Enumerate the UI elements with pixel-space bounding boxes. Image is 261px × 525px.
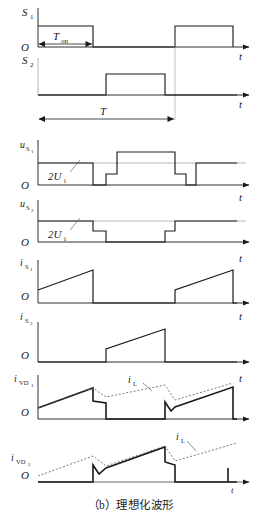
ivd1-origin-label: O	[21, 406, 29, 418]
ivd2-diode-waveform	[38, 447, 237, 482]
us2-level-leader-line	[70, 218, 80, 230]
ivd2-label-sub-main: VD	[16, 458, 26, 465]
us1-stepped-waveform	[38, 152, 237, 185]
ivd1-time-label: t	[239, 372, 243, 384]
ivd1-label-sub-main: VD	[19, 379, 29, 386]
ivd1-il-label: i	[128, 374, 131, 385]
ivd1-label-main: i	[14, 373, 17, 384]
ivd2-label-main: i	[11, 452, 14, 463]
ivd2-time-label: t	[231, 485, 234, 495]
trace-us2: u S 2 O 2U i	[20, 198, 249, 248]
is2-label-main: i	[20, 311, 23, 322]
period-label: T	[100, 105, 107, 117]
ivd2-il-label: i	[176, 431, 179, 442]
ivd2-il-sublabel: L	[181, 437, 185, 444]
us2-label-sub-sub: 2	[31, 208, 34, 213]
is1-label-sub-sub: 1	[30, 267, 33, 272]
s1-label-sub: 1	[30, 13, 34, 21]
s2-label-main: S	[22, 54, 28, 66]
ivd1-diode-waveform	[38, 387, 237, 419]
trace-is2: i S 2 O t	[20, 310, 249, 362]
is1-ramp-waveform	[38, 270, 237, 303]
trace-s1: S 1 O t T on	[21, 6, 249, 120]
ivd2-il-overlay	[38, 443, 237, 476]
is2-label-sub-main: S	[25, 317, 29, 324]
timing-diagram-svg: S 1 O t T on S 2 t T u S 1 O 2U i t	[0, 0, 261, 525]
us2-label-main: u	[20, 198, 25, 209]
t-on-label: T	[53, 30, 60, 42]
us2-stepped-waveform	[38, 221, 237, 242]
us2-level-label: 2U	[48, 228, 63, 240]
us1-label-sub-main: S	[26, 145, 30, 152]
us1-time-label: t	[239, 191, 243, 203]
us1-label-main: u	[20, 139, 25, 150]
s1-label-main: S	[22, 6, 28, 18]
trace-s2: S 2 t T	[22, 54, 249, 119]
is1-label-main: i	[20, 257, 23, 268]
t-on-sublabel: on	[61, 37, 69, 45]
is2-origin-label: O	[21, 349, 29, 361]
waveform-figure: S 1 O t T on S 2 t T u S 1 O 2U i t	[0, 0, 261, 525]
us1-level-label: 2U	[48, 170, 63, 182]
is1-origin-label: O	[21, 290, 29, 302]
is1-time-label: t	[239, 252, 243, 264]
us1-level-leader-line	[70, 160, 80, 172]
trace-is1: i S 1 O t	[20, 252, 249, 303]
ivd2-label-sub-sub: 2	[28, 462, 31, 467]
is1-label-sub-main: S	[25, 263, 29, 270]
s2-pulse-waveform	[38, 74, 237, 95]
is2-ramp-waveform	[38, 329, 237, 362]
trace-ivd2: i L i VD 2 O t	[11, 431, 249, 495]
trace-ivd1: i L i VD 1 O t	[14, 372, 249, 419]
ivd2-origin-label: O	[21, 469, 29, 481]
ivd1-il-sublabel: L	[133, 380, 137, 387]
us2-level-sublabel: i	[64, 235, 66, 243]
s1-origin-label: O	[21, 41, 29, 53]
ivd2-il-leader-line	[187, 441, 196, 451]
us1-level-sublabel: i	[64, 177, 66, 185]
ivd1-label-sub-sub: 1	[31, 383, 34, 388]
s2-label-sub: 2	[30, 61, 34, 69]
is2-time-label: t	[239, 310, 243, 322]
s1-time-label: t	[239, 50, 243, 62]
us1-origin-label: O	[21, 179, 29, 191]
us2-label-sub-main: S	[26, 204, 30, 211]
s2-time-label: t	[239, 98, 243, 110]
us2-origin-label: O	[21, 236, 29, 248]
ivd1-il-leader-line	[143, 383, 152, 391]
figure-caption: （b）理想化波形	[0, 496, 261, 512]
us1-label-sub-sub: 1	[31, 149, 34, 154]
trace-us1: u S 1 O 2U i t	[20, 139, 249, 203]
is2-label-sub-sub: 2	[30, 321, 33, 326]
